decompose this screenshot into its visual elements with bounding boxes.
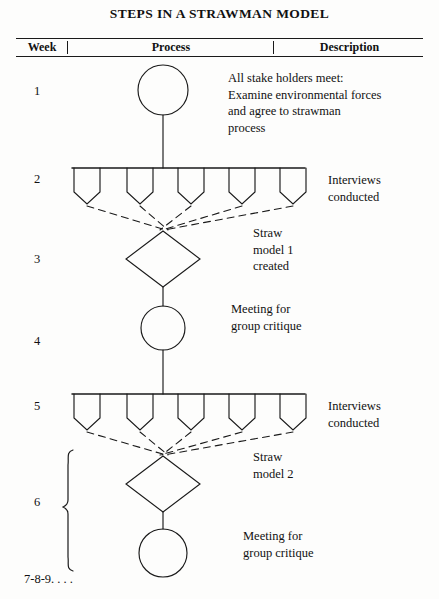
interview-shield-1-4	[229, 168, 255, 204]
dashed-converge-1-2	[140, 206, 168, 230]
node-diamond-week-3	[126, 231, 200, 287]
interview-shield-2-1	[74, 394, 100, 430]
process-flow-diagram	[0, 0, 439, 599]
interview-shield-1-5	[280, 168, 306, 204]
interview-shield-1-1	[74, 168, 100, 204]
diagram-page: STEPS IN A STRAWMAN MODEL Week Process D…	[0, 0, 439, 599]
node-circle-week-6	[139, 529, 187, 577]
interview-shield-2-5	[280, 394, 306, 430]
interview-shield-1-2	[127, 168, 153, 204]
interview-shield-2-4	[229, 394, 255, 430]
node-diamond-week-6	[126, 456, 200, 512]
dashed-converge-2-3	[162, 432, 191, 455]
dashed-converge-2-2	[140, 432, 168, 455]
interview-shield-2-2	[127, 394, 153, 430]
interview-shield-1-3	[178, 168, 204, 204]
node-circle-week-1	[138, 65, 188, 115]
interview-shield-2-3	[178, 394, 204, 430]
node-circle-week-4	[141, 306, 185, 350]
week-6-brace	[63, 450, 73, 571]
